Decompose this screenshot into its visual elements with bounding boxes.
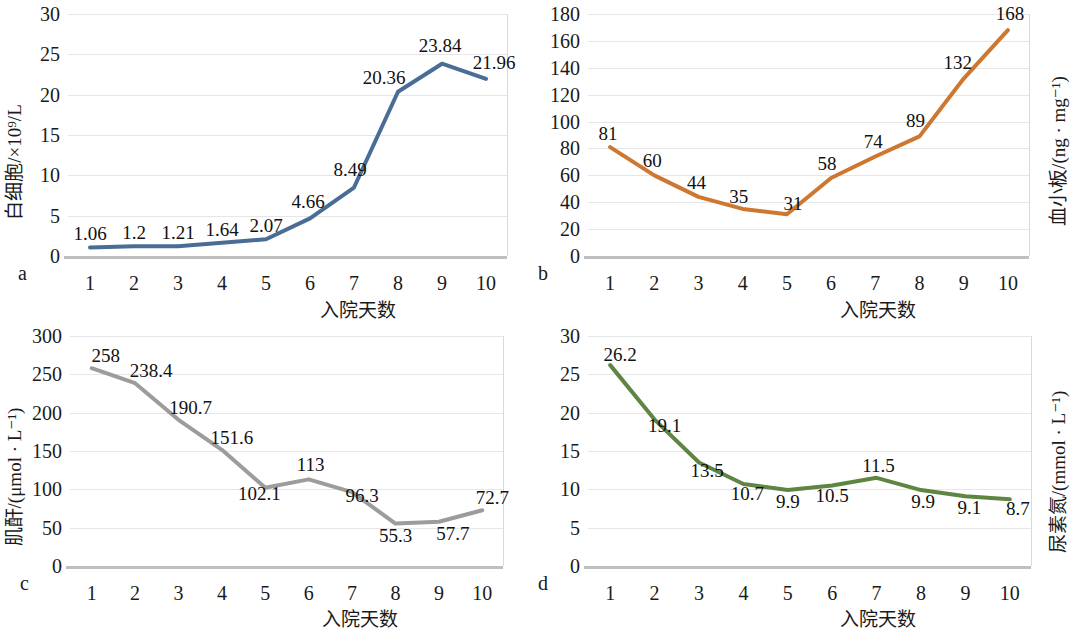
y-tick-label: 10 [40, 164, 60, 187]
x-tick-label: 6 [826, 272, 836, 295]
data-point-label: 102.1 [238, 483, 281, 505]
y-tick-label: 10 [560, 478, 580, 501]
y-tick-label: 30 [40, 3, 60, 26]
series-line [588, 336, 1032, 566]
data-point-label: 2.07 [249, 215, 282, 237]
y-tick-label: 200 [32, 401, 62, 424]
x-tick-label: 5 [261, 272, 271, 295]
chart-panel-d: 尿素氮/(mmol · L⁻¹) 051015202530 26.219.113… [522, 310, 1044, 618]
y-tick-label: 20 [40, 83, 60, 106]
chart-panel-b: 血小板/(ng · mg⁻¹) 020406080100120140160180… [522, 0, 1044, 310]
data-point-label: 9.9 [911, 491, 935, 513]
data-point-label: 8.49 [333, 159, 366, 181]
data-point-label: 1.64 [205, 219, 238, 241]
x-tick-label: 3 [173, 272, 183, 295]
x-tick-label: 9 [437, 272, 447, 295]
y-tick-label: 5 [570, 516, 580, 539]
x-tick-label: 9 [960, 582, 970, 605]
panel-letter-a: a [18, 262, 27, 285]
plot-area-c: 258238.4190.7151.6102.111396.355.357.772… [70, 336, 504, 566]
data-point-label: 1.06 [73, 223, 106, 245]
x-tick-label: 7 [870, 272, 880, 295]
x-tick-label: 4 [217, 582, 227, 605]
data-point-label: 13.5 [690, 460, 723, 482]
data-point-label: 89 [906, 110, 925, 132]
y-tick-label: 25 [560, 363, 580, 386]
x-tick-label: 10 [476, 272, 496, 295]
x-axis-line [66, 566, 503, 569]
x-tick-label: 7 [872, 582, 882, 605]
data-point-label: 151.6 [211, 427, 254, 449]
data-point-label: 11.5 [862, 455, 895, 477]
data-point-label: 1.2 [122, 222, 146, 244]
x-tick-label: 8 [391, 582, 401, 605]
y-tick-label: 140 [550, 56, 580, 79]
x-tick-label: 9 [959, 272, 969, 295]
y-tick-label: 30 [560, 325, 580, 348]
x-tick-label: 3 [694, 582, 704, 605]
x-axis-line [584, 256, 1029, 259]
y-tick-label: 20 [560, 218, 580, 241]
data-point-label: 8.7 [1006, 498, 1030, 520]
data-point-label: 258 [91, 345, 120, 367]
x-tick-label: 3 [694, 272, 704, 295]
data-point-label: 238.4 [130, 360, 173, 382]
y-tick-labels-a: 051015202530 [0, 14, 60, 256]
plot-area-b: 8160443531587489132168 [588, 14, 1030, 256]
data-point-label: 74 [864, 131, 883, 153]
y-tick-labels-c: 050100150200250300 [0, 336, 62, 566]
y-tick-label: 0 [570, 555, 580, 578]
panel-letter-c: c [20, 572, 29, 595]
x-tick-label: 7 [347, 582, 357, 605]
x-tick-label: 7 [349, 272, 359, 295]
data-point-label: 21.96 [473, 52, 516, 74]
y-tick-label: 300 [32, 325, 62, 348]
x-tick-label: 10 [472, 582, 492, 605]
data-point-label: 190.7 [169, 397, 212, 419]
y-tick-label: 50 [42, 516, 62, 539]
x-tick-label: 1 [87, 582, 97, 605]
x-tick-label: 1 [605, 582, 615, 605]
y-tick-label: 0 [50, 245, 60, 268]
x-tick-label: 5 [783, 582, 793, 605]
x-tick-label: 4 [217, 272, 227, 295]
y-tick-label: 25 [40, 43, 60, 66]
y-tick-label: 15 [40, 124, 60, 147]
y-tick-label: 5 [50, 204, 60, 227]
x-tick-label: 2 [650, 582, 660, 605]
y-tick-labels-d: 051015202530 [522, 336, 580, 566]
x-axis-line [64, 256, 507, 259]
y-tick-label: 250 [32, 363, 62, 386]
x-tick-label: 8 [915, 272, 925, 295]
plot-area-a: 1.061.21.211.642.074.668.4920.3623.8421.… [68, 14, 508, 256]
x-tick-label: 4 [738, 582, 748, 605]
data-point-label: 1.21 [161, 222, 194, 244]
data-point-label: 113 [297, 454, 325, 476]
x-tick-label: 1 [605, 272, 615, 295]
y-tick-label: 60 [560, 164, 580, 187]
y-tick-label: 180 [550, 3, 580, 26]
y-tick-label: 120 [550, 83, 580, 106]
data-point-label: 58 [818, 153, 837, 175]
data-point-label: 132 [943, 52, 972, 74]
x-tick-label: 6 [304, 582, 314, 605]
y-axis-label-d: 尿素氮/(mmol · L⁻¹) [1046, 354, 1072, 590]
y-axis-label-b: 血小板/(ng · mg⁻¹) [1046, 26, 1072, 276]
x-axis-label-d: 入院天数 [728, 604, 1028, 631]
y-tick-label: 80 [560, 137, 580, 160]
x-tick-label: 9 [434, 582, 444, 605]
data-point-label: 19.1 [648, 415, 681, 437]
x-tick-label: 2 [129, 272, 139, 295]
chart-panel-c: 肌酐/(μmol · L⁻¹) 050100150200250300 25823… [0, 310, 522, 618]
data-point-label: 96.3 [345, 485, 378, 507]
x-tick-label: 6 [827, 582, 837, 605]
data-point-label: 4.66 [291, 191, 324, 213]
x-tick-label: 8 [393, 272, 403, 295]
data-point-label: 9.1 [958, 497, 982, 519]
x-tick-label: 5 [782, 272, 792, 295]
x-tick-label: 2 [130, 582, 140, 605]
series-line [588, 14, 1030, 256]
y-tick-label: 150 [32, 440, 62, 463]
data-point-label: 57.7 [436, 523, 469, 545]
